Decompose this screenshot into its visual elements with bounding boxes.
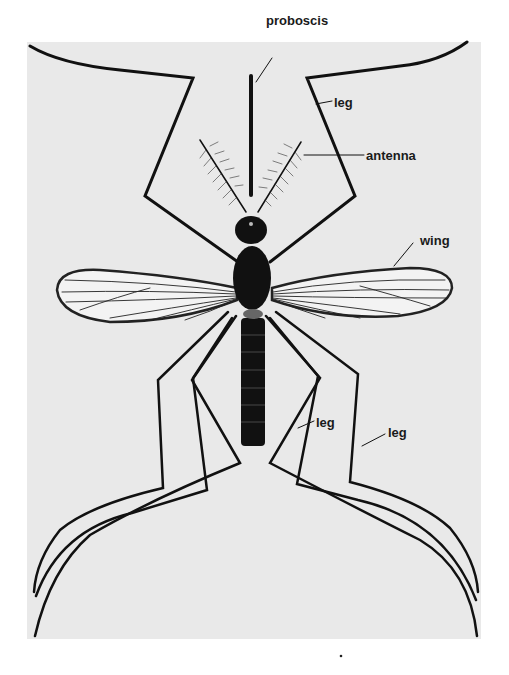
wing-left bbox=[57, 270, 237, 322]
label-wing: wing bbox=[420, 234, 450, 247]
head bbox=[235, 216, 267, 244]
proboscis-pointer bbox=[256, 58, 272, 82]
label-leg-hind: leg bbox=[388, 426, 407, 439]
antenna-right bbox=[258, 142, 301, 212]
mid-leg-left bbox=[36, 318, 232, 596]
leg-pointer-hind bbox=[362, 434, 385, 446]
mosquito-illustration bbox=[0, 0, 509, 675]
leg-pointer-mid bbox=[298, 421, 314, 428]
label-leg-mid: leg bbox=[316, 416, 335, 429]
label-leg-front: leg bbox=[334, 96, 353, 109]
front-leg-left bbox=[30, 46, 238, 262]
wing-pointer bbox=[394, 243, 413, 266]
mid-leg-right bbox=[270, 318, 476, 600]
thorax bbox=[233, 246, 271, 310]
abdomen bbox=[241, 318, 265, 446]
label-proboscis: proboscis bbox=[266, 14, 328, 27]
label-antenna: antenna bbox=[366, 149, 416, 162]
